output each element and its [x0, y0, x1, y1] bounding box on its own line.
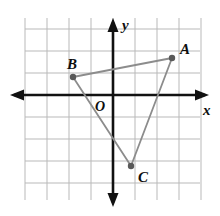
point-label-a: A: [180, 42, 190, 57]
x-axis-arrow-right: [195, 90, 209, 101]
vertex-dot-c: [128, 163, 134, 169]
triangle-edge-bc: [73, 77, 131, 166]
x-axis-arrow-left: [10, 90, 24, 101]
y-axis-arrow-up: [108, 18, 119, 32]
x-axis-label: x: [203, 103, 211, 118]
origin-label: O: [95, 100, 105, 114]
coordinate-plane-figure: A B C O x y: [0, 0, 220, 216]
vertex-dot-b: [70, 74, 76, 80]
plot-canvas: [0, 0, 220, 216]
triangle-edge-ca: [131, 58, 172, 166]
vertex-dot-a: [169, 55, 175, 61]
point-label-b: B: [67, 57, 77, 72]
point-label-c: C: [138, 170, 148, 185]
y-axis-arrow-down: [108, 193, 119, 207]
y-axis-label: y: [122, 18, 129, 33]
